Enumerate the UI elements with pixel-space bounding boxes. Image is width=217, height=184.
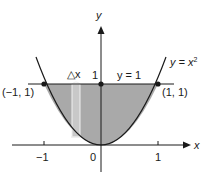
curve-label: y = x2 <box>169 56 198 68</box>
point-0-1 <box>98 81 103 86</box>
y-axis-arrow-icon <box>98 26 105 34</box>
x-tick-label-neg1: −1 <box>36 151 49 163</box>
point-label-neg1-1: (−1, 1) <box>2 86 34 98</box>
x-tick-label-0: 0 <box>90 151 96 163</box>
point-neg1-1 <box>41 81 46 86</box>
area-diagram: y x y = x2 y = 1 1 △x (−1, 1) (1, 1) −1 … <box>0 0 217 184</box>
y-axis-label: y <box>95 9 103 21</box>
delta-x-label: △x <box>67 68 81 80</box>
line-label: y = 1 <box>117 69 141 81</box>
point-label-1-1: (1, 1) <box>162 86 188 98</box>
x-axis-label: x <box>193 139 200 151</box>
x-tick-label-1: 1 <box>155 151 161 163</box>
point-1-1 <box>155 81 160 86</box>
x-axis-arrow-icon <box>183 142 191 149</box>
y-tick-label: 1 <box>92 69 98 81</box>
